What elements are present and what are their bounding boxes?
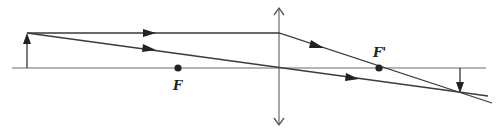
ray-direction-arrow-icon <box>345 73 359 81</box>
focal-point-f-prime <box>375 64 382 71</box>
ray-direction-arrow-icon <box>143 29 156 37</box>
focal-point-f <box>174 64 181 71</box>
ray-diagram <box>0 0 501 129</box>
focal-label-f: F <box>173 79 182 92</box>
object-arrow <box>23 33 31 68</box>
parallel-ray <box>27 29 492 103</box>
ray-direction-arrow-icon <box>309 40 324 48</box>
image-arrow <box>456 68 464 93</box>
focal-label-f-prime: F' <box>373 46 386 59</box>
center-ray <box>27 33 488 96</box>
